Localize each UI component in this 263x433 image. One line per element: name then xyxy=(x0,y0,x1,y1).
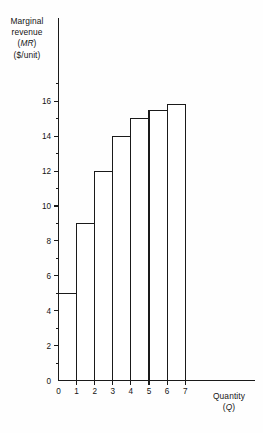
x-axis-tick-labels-group: 01234567 xyxy=(56,387,188,396)
y-tick-label-12: 12 xyxy=(42,167,52,176)
x-tick-label-5: 5 xyxy=(147,387,152,396)
bar-q1 xyxy=(59,293,77,380)
x-tick-label-4: 4 xyxy=(129,387,134,396)
x-tick-label-3: 3 xyxy=(111,387,116,396)
y-tick-label-2: 2 xyxy=(46,342,51,351)
y-tick-label-8: 8 xyxy=(46,237,51,246)
bar-q5 xyxy=(131,119,149,381)
y-tick-label-10: 10 xyxy=(42,202,52,211)
y-tick-label-14: 14 xyxy=(42,132,52,141)
bar-q4 xyxy=(113,136,131,380)
bar-q7 xyxy=(167,105,185,381)
bar-q6 xyxy=(149,110,167,380)
y-axis-tick-labels-group: 0246810121416 xyxy=(42,97,52,385)
y-tick-label-6: 6 xyxy=(46,272,51,281)
bars-group xyxy=(59,105,186,381)
bar-q2 xyxy=(77,223,95,380)
y-tick-label-4: 4 xyxy=(46,307,51,316)
bar-q3 xyxy=(95,171,113,380)
x-tick-label-1: 1 xyxy=(74,387,79,396)
x-tick-label-7: 7 xyxy=(183,387,188,396)
x-tick-label-2: 2 xyxy=(92,387,97,396)
plot-area: 0246810121416 01234567 xyxy=(0,0,263,433)
y-tick-label-0: 0 xyxy=(46,377,51,386)
y-tick-label-16: 16 xyxy=(42,97,52,106)
x-tick-label-6: 6 xyxy=(165,387,170,396)
x-tick-label-0: 0 xyxy=(56,387,61,396)
marginal-revenue-chart-figure: Marginal revenue (MR) ($/unit) Quantity … xyxy=(0,0,263,433)
